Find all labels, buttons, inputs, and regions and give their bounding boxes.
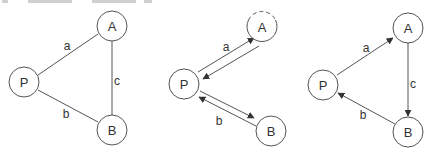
node-b-label: B [108, 123, 117, 138]
panel-undirected: A P B a b c [9, 11, 127, 145]
graph-diagrams: A P B a b c A P B a b [0, 0, 430, 154]
edge-p-to-b [200, 91, 254, 118]
node-a-label: A [258, 20, 267, 35]
edge-label-c: c [114, 74, 120, 88]
node-b-label: B [267, 124, 276, 139]
node-a-label: A [108, 19, 117, 34]
panel-cycle: A P B a b c [308, 13, 423, 147]
edge-label-b: b [360, 108, 367, 122]
edge-a-to-p [203, 46, 259, 79]
node-p-label: P [20, 75, 29, 90]
edge-b-to-p [338, 93, 395, 124]
edge-label-a: a [223, 40, 230, 54]
edge-b-to-p [199, 97, 256, 126]
node-b-label: B [404, 125, 413, 140]
node-p-label: P [180, 77, 189, 92]
diagram-canvas: A P B a b c A P B a b [0, 0, 430, 154]
node-a-label: A [404, 21, 413, 36]
edge-label-b: b [63, 107, 70, 121]
edge-label-b: b [216, 114, 223, 128]
edge-label-c: c [410, 77, 416, 91]
node-p-label: P [319, 78, 328, 93]
edge-label-a: a [363, 41, 370, 55]
edge-label-a: a [64, 39, 71, 53]
node-a-dashed-top [249, 12, 276, 20]
panel-bidirectional: A P B a b [169, 12, 286, 146]
